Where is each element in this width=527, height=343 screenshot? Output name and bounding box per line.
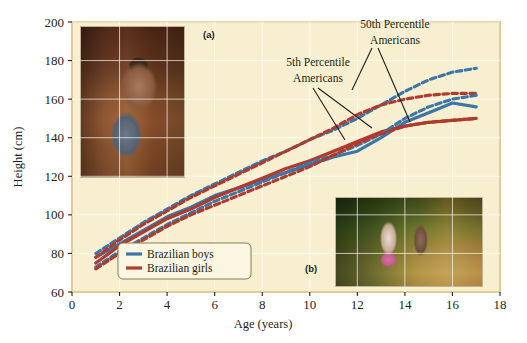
x-tick-label: 6 <box>211 297 218 312</box>
x-tick-label: 4 <box>164 297 171 312</box>
x-tick-label: 10 <box>303 297 316 312</box>
x-tick-label: 8 <box>259 297 266 312</box>
y-tick-label: 120 <box>45 169 65 184</box>
x-tick-label: 18 <box>494 297 507 312</box>
y-axis-title: Height (cm) <box>11 127 25 188</box>
growth-chart-figure: 50th PercentileAmericans5th PercentileAm… <box>0 0 527 343</box>
photo-boy-carrying-animal <box>81 27 184 177</box>
x-tick-label: 16 <box>446 297 460 312</box>
y-tick-label: 160 <box>45 92 65 107</box>
x-tick-label: 14 <box>398 297 412 312</box>
x-axis-title: Age (years) <box>234 317 293 331</box>
y-tick-label: 100 <box>45 207 65 222</box>
x-tick-label: 12 <box>351 297 364 312</box>
photo-two-girls-carrying-load <box>336 198 482 286</box>
y-tick-label: 200 <box>45 15 65 30</box>
x-tick-label: 2 <box>116 297 123 312</box>
x-tick-label: 0 <box>69 297 76 312</box>
y-axis-tick-labels: 6080100120140160180200 <box>45 15 65 300</box>
y-tick-label: 60 <box>51 285 64 300</box>
y-tick-label: 140 <box>45 130 65 145</box>
y-tick-label: 80 <box>51 246 64 261</box>
x-axis-tick-labels: 024681012141618 <box>69 297 507 312</box>
y-tick-label: 180 <box>45 53 65 68</box>
